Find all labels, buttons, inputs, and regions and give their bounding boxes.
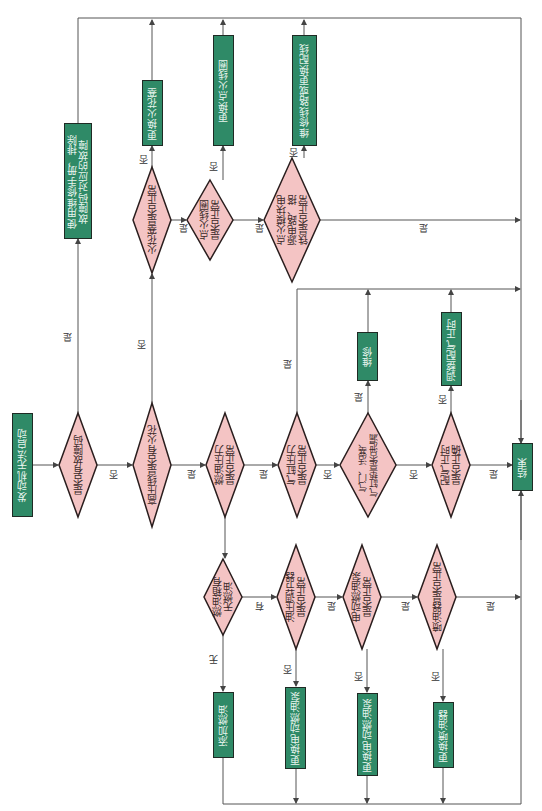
- process-label: 更换电动燃油泵: [290, 691, 301, 765]
- process-repair: 维修: [357, 332, 378, 381]
- process-adjust-valve-timing: 调整配气正时: [441, 312, 462, 386]
- decision-ignition-coil-ok: 点火线圈 是否正常: [187, 180, 233, 260]
- edge-label-yes: 是: [254, 224, 264, 233]
- process-label: 添加燃油: [218, 704, 229, 746]
- decision-label: 燃油压力 是否正常: [214, 445, 236, 485]
- process-fix-fault-code: 使用维修手册，排除 故障码对应的故障: [64, 123, 92, 239]
- process-label: 调整配气正时: [446, 318, 457, 381]
- decision-label: 电动燃油泵 是否正常: [351, 572, 373, 622]
- process-replace-fuel-pump-2: 更换电动燃油泵: [357, 693, 378, 776]
- decision-fuel-pump-ok: 电动燃油泵 是否正常: [343, 545, 381, 649]
- decision-has-fault-code: 是否有故障码: [59, 413, 97, 517]
- decision-label: 点火线圈 是否正常: [199, 200, 221, 240]
- edge-label-yes: 是: [418, 224, 428, 233]
- edge-label-yes: 是: [400, 602, 410, 611]
- edge-label-no: 否: [138, 155, 148, 164]
- edge-label-yes: 是: [258, 470, 268, 479]
- decision-fuel-tank-has-fuel: 燃油箱有 无燃油: [204, 559, 242, 635]
- process-replace-injector: 更换喷油器: [433, 702, 454, 768]
- decision-spark-plug-ok: 火花塞是否正常: [133, 167, 171, 273]
- process-label: 更换点火线圈: [218, 59, 229, 122]
- decision-injector-ok: 喷油器是否正常: [418, 545, 456, 649]
- edge-label-no: 否: [430, 672, 440, 681]
- decision-cylinder-pressure-ok: 气缸压力 是否正常: [278, 413, 316, 517]
- decision-label: 油压调节器 是否正常: [285, 572, 307, 622]
- edge-label-yes: 是: [178, 224, 188, 233]
- end-label: 结束: [517, 457, 528, 478]
- decision-valve-timing-ok: 配气正时 是否正确: [432, 413, 470, 517]
- process-label: 维修: [362, 346, 373, 367]
- decision-label: 气缸压力 是否正常: [286, 445, 308, 485]
- process-replace-fuel-pump-1: 更换电动燃油泵: [285, 687, 306, 769]
- edge-label-no: 否: [353, 672, 363, 681]
- process-label: 使用维修手册，排除 故障码对应的故障: [67, 134, 89, 229]
- edge-label-no: 否: [322, 470, 332, 479]
- decision-hv-spark: 高压线是否有火花: [133, 403, 171, 527]
- process-label: 更换喷油器: [438, 709, 449, 762]
- edge-label-yes: 是: [488, 470, 498, 479]
- decision-regulator-ok: 油压调节器 是否正常: [277, 545, 315, 649]
- edge-label-no: 否: [288, 148, 298, 157]
- decision-fuel-pressure-ok: 燃油压力 是否正常: [206, 413, 244, 517]
- process-replace-spark-plug: 更换火花塞: [142, 80, 163, 146]
- edge-label-no: 否: [282, 665, 292, 674]
- process-label: 更换火花塞: [147, 87, 158, 140]
- edge-label-yes: 是: [282, 360, 292, 369]
- process-label: 维修线路或更换配线: [299, 43, 310, 138]
- edge-label-yes: 是: [353, 393, 363, 402]
- decision-label: 是否有故障码: [73, 435, 84, 495]
- decision-label: 喷油器是否正常: [432, 562, 443, 632]
- edge-label-yes: 是: [485, 602, 495, 611]
- edge-label-yes: 是: [62, 333, 72, 342]
- process-label: 更换电动燃油泵: [362, 698, 373, 772]
- connector-lines: [0, 0, 542, 811]
- edge-label-no: 否: [437, 395, 447, 404]
- edge-label-no: 否: [408, 470, 418, 479]
- decision-valve-leak: 气门、活塞、 气缸垫是否泄漏: [340, 413, 396, 517]
- edge-label-none: 无: [208, 655, 218, 664]
- edge-label-yes: 是: [186, 470, 196, 479]
- edge-label-yes: 是: [326, 602, 336, 611]
- edge-label-have: 有: [254, 602, 264, 611]
- process-add-fuel: 添加燃油: [213, 692, 234, 758]
- start-node: 发动机无法启动: [12, 413, 33, 517]
- edge-label-no: 否: [136, 340, 146, 349]
- decision-label: 高压线是否有火花: [147, 425, 158, 505]
- start-label: 发动机无法启动: [17, 428, 28, 502]
- process-replace-ignition-coil: 更换点火线圈: [213, 35, 234, 146]
- flowchart-canvas: 发动机无法启动 结束 使用维修手册，排除 故障码对应的故障 更换火花塞 更换点火…: [0, 0, 542, 811]
- decision-label: 火花塞是否正常: [147, 185, 158, 255]
- edge-label-no: 否: [108, 470, 118, 479]
- end-node: 结束: [512, 443, 533, 491]
- decision-label: 气门、活塞、 气缸垫是否泄漏: [357, 434, 379, 497]
- process-repair-wiring: 维修线路或更换配线: [292, 35, 317, 146]
- decision-ignition-module-ok: 点火模块电 源电路、搭 铁是否正常: [264, 158, 320, 282]
- decision-label: 燃油箱有 无燃油: [212, 577, 234, 617]
- decision-label: 配气正时 是否正确: [440, 445, 462, 485]
- edge-label-no: 否: [208, 162, 218, 171]
- decision-label: 点火模块电 源电路、搭 铁是否正常: [276, 195, 309, 245]
